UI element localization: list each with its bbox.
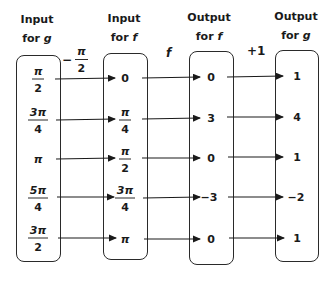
output-g-value: −2 <box>274 191 318 204</box>
output-f-value: −3 <box>187 191 231 204</box>
input-g-value: π2 <box>16 65 60 94</box>
output-f-value: 3 <box>189 112 233 125</box>
input-g-value: π <box>16 153 60 166</box>
output-f-value: 0 <box>189 71 233 84</box>
input-f-value: π <box>103 233 147 246</box>
input-f-value: π4 <box>103 106 147 135</box>
input-g-value: 3π4 <box>16 106 60 135</box>
output-g-value: 1 <box>275 232 319 245</box>
output-f-value: 0 <box>189 152 233 165</box>
output-f-value: 0 <box>189 233 233 246</box>
output-g-value: 1 <box>275 70 319 83</box>
input-g-value: 3π2 <box>16 224 60 253</box>
output-g-value: 1 <box>275 151 319 164</box>
input-f-value: π2 <box>103 145 147 174</box>
input-f-value: 0 <box>103 72 147 85</box>
input-f-value: 3π4 <box>103 184 147 213</box>
output-g-value: 4 <box>275 111 319 124</box>
input-g-value: 5π4 <box>16 184 60 213</box>
